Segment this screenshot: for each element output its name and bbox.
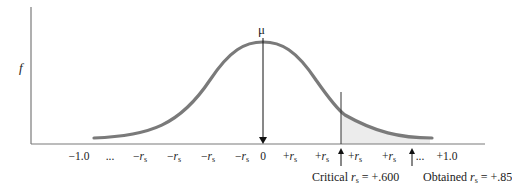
x-tick-label: +rs bbox=[283, 150, 297, 164]
mean-arrowhead-icon bbox=[259, 137, 267, 144]
x-tick-label: −rs bbox=[133, 150, 147, 164]
x-tick-label: −rs bbox=[201, 150, 215, 164]
mean-label: μ bbox=[258, 22, 265, 38]
obtained-arrowhead-icon bbox=[409, 148, 415, 154]
rejection-region-shade bbox=[341, 113, 430, 144]
obtained-caption: Obtained rs = +.85 bbox=[423, 170, 512, 185]
x-tick-label: +rs bbox=[348, 150, 362, 164]
x-tick-label: −1.0 bbox=[69, 150, 90, 162]
x-tick-label: −rs bbox=[235, 150, 249, 164]
critical-caption: Critical rs = +.600 bbox=[312, 170, 399, 185]
x-tick-label: −rs bbox=[167, 150, 181, 164]
critical-arrowhead-icon bbox=[338, 148, 344, 154]
x-tick-label: +rs bbox=[315, 150, 329, 164]
x-tick-label: ... bbox=[416, 150, 425, 162]
x-tick-label: ... bbox=[106, 150, 115, 162]
y-axis-label: f bbox=[19, 60, 23, 76]
x-tick-label: 0 bbox=[260, 150, 266, 162]
x-tick-label: +1.0 bbox=[437, 150, 458, 162]
x-tick-label: +rs bbox=[382, 150, 396, 164]
